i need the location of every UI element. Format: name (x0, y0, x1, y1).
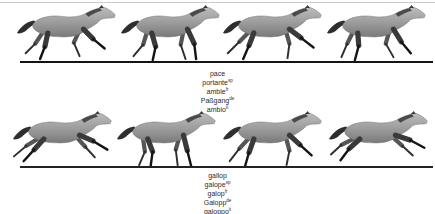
ground-line-top (20, 61, 433, 63)
gait-term: galopesp (0, 180, 435, 189)
gait-term-text: galoppo (204, 208, 229, 214)
ground-line-bottom (20, 166, 433, 168)
pace-frames-row (0, 4, 435, 66)
gait-heading-gallop: gallop (0, 171, 435, 180)
gait-term-text: galope (205, 181, 226, 188)
gait-term-text: Paßgang (201, 97, 229, 104)
gait-term-text: portante (202, 79, 228, 86)
pace-horse-frame-4 (326, 4, 432, 64)
gait-term: galopfr (0, 189, 435, 198)
lang-superscript: sp (226, 180, 231, 185)
gait-term-text: amble (207, 88, 226, 95)
lang-superscript: fr (225, 189, 228, 194)
gallop-horse-frame-3 (222, 110, 328, 170)
lang-superscript: it (226, 105, 228, 110)
pace-horse-frame-3 (222, 4, 328, 64)
lang-superscript: it (229, 207, 231, 212)
lang-superscript: de (226, 198, 231, 203)
gait-heading-pace: pace (0, 69, 435, 78)
gait-term: amblefr (0, 87, 435, 96)
gait-term: galoppoit (0, 207, 435, 214)
gait-term: Paßgangde (0, 96, 435, 105)
gait-term-text: gallop (208, 172, 227, 179)
gait-term-text: galop (208, 190, 225, 197)
lang-superscript: fr (226, 87, 229, 92)
pace-label-block: pace portantesp amblefr Paßgangde ambioi… (0, 69, 435, 114)
gallop-horse-frame-2 (116, 110, 222, 170)
lang-superscript: de (229, 96, 234, 101)
gait-term-text: Galopp (204, 199, 227, 206)
gallop-horse-frame-4 (328, 110, 434, 170)
gait-term: Galoppde (0, 198, 435, 207)
gallop-horse-frame-1 (12, 110, 118, 170)
page-top-rule (0, 2, 435, 3)
pace-horse-frame-2 (120, 4, 226, 64)
lang-superscript: sp (228, 78, 233, 83)
gallop-frames-row (0, 110, 435, 172)
gait-term-text: pace (210, 70, 225, 77)
pace-horse-frame-1 (16, 4, 122, 64)
gallop-label-block: gallop galopesp galopfr Galoppde galoppo… (0, 171, 435, 214)
gait-term: portantesp (0, 78, 435, 87)
